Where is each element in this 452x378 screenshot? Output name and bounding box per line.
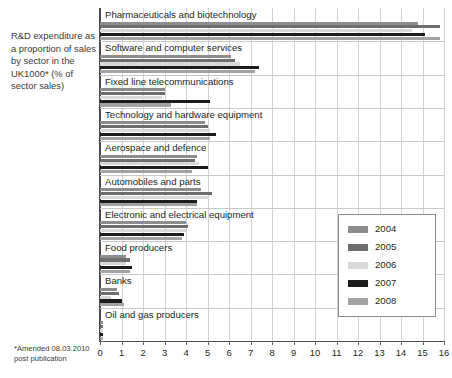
- x-axis-tick-label: 7: [241, 347, 261, 358]
- x-axis-tick-label: 14: [391, 347, 411, 358]
- x-axis-tick-label: 3: [155, 347, 175, 358]
- bar-2008: [100, 237, 182, 240]
- bar-2008: [100, 270, 130, 273]
- x-axis-tick-label: 16: [434, 347, 452, 358]
- bar-2006: [100, 29, 412, 32]
- x-axis-tick-label: 10: [305, 347, 325, 358]
- x-axis-tick: [122, 341, 123, 345]
- bar-2006: [100, 229, 186, 232]
- bar-2007: [100, 166, 208, 169]
- bar-2006: [100, 329, 103, 332]
- category-label: Fixed line telecommunications: [105, 76, 234, 87]
- bar-2005: [100, 192, 212, 195]
- bar-group: Pharmaceuticals and biotechnology: [100, 8, 444, 41]
- category-label: Banks: [105, 275, 132, 286]
- x-axis-tick: [272, 341, 273, 345]
- x-axis-tick: [401, 341, 402, 345]
- category-label: Electronic and electrical equipment: [105, 209, 254, 220]
- bar-2006: [100, 296, 111, 299]
- bar-group: Automobiles and parts: [100, 175, 444, 208]
- bar-2008: [100, 70, 255, 73]
- x-axis-tick: [143, 341, 144, 345]
- x-axis-tick: [100, 341, 101, 345]
- bar-2007: [100, 333, 103, 336]
- category-label: Technology and hardware equipment: [105, 109, 262, 120]
- chart-footnote: *Amended 08.03.2010 post publication: [14, 344, 102, 363]
- x-axis-tick-label: 1: [112, 347, 132, 358]
- bar-2006: [100, 62, 240, 65]
- bar-2005: [100, 292, 119, 295]
- x-axis-tick: [229, 341, 230, 345]
- legend-swatch-2004: [348, 226, 368, 233]
- x-axis-tick: [358, 341, 359, 345]
- bar-2005: [100, 92, 165, 95]
- bar-2004: [100, 321, 103, 324]
- bar-group: Aerospace and defence: [100, 141, 444, 174]
- x-axis-tick-label: 8: [262, 347, 282, 358]
- x-axis-tick-label: 0: [90, 347, 110, 358]
- legend-swatch-2005: [348, 244, 368, 251]
- bar-2004: [100, 221, 186, 224]
- x-axis-tick: [337, 341, 338, 345]
- x-axis-tick-label: 6: [219, 347, 239, 358]
- legend-label: 2008: [375, 295, 396, 307]
- bar-2007: [100, 33, 425, 36]
- x-axis-tick: [208, 341, 209, 345]
- legend-swatch-2006: [348, 262, 368, 269]
- category-label: Automobiles and parts: [105, 176, 200, 187]
- bar-2007: [100, 266, 132, 269]
- bar-2008: [100, 37, 440, 40]
- category-label: Food producers: [105, 242, 172, 253]
- x-axis-tick: [315, 341, 316, 345]
- bar-2005: [100, 25, 440, 28]
- x-axis-tick-label: 12: [348, 347, 368, 358]
- bar-2004: [100, 55, 231, 58]
- category-label: Aerospace and defence: [105, 142, 206, 153]
- legend-label: 2006: [375, 259, 396, 271]
- bar-2008: [100, 303, 124, 306]
- x-axis-tick-label: 15: [413, 347, 433, 358]
- bar-2007: [100, 200, 197, 203]
- bar-2007: [100, 100, 210, 103]
- x-axis-tick-label: 11: [327, 347, 347, 358]
- x-axis-tick-label: 4: [176, 347, 196, 358]
- bar-2005: [100, 59, 235, 62]
- legend-label: 2007: [375, 277, 396, 289]
- bar-2005: [100, 225, 188, 228]
- bar-2006: [100, 162, 199, 165]
- bar-group: Fixed line telecommunications: [100, 75, 444, 108]
- bar-2005: [100, 125, 208, 128]
- bar-2008: [100, 103, 171, 106]
- legend-label: 2005: [375, 241, 396, 253]
- bar-2008: [100, 137, 210, 140]
- category-label: Software and computer services: [105, 42, 242, 53]
- x-axis-tick: [186, 341, 187, 345]
- bar-2008: [100, 170, 192, 173]
- x-axis-tick-label: 5: [198, 347, 218, 358]
- chart-caption: R&D expenditure as a proportion of sales…: [11, 30, 97, 93]
- bar-2007: [100, 133, 216, 136]
- x-axis-tick: [251, 341, 252, 345]
- bar-2005: [100, 159, 195, 162]
- bar-2004: [100, 155, 197, 158]
- gridline: [444, 8, 445, 341]
- bar-2006: [100, 262, 126, 265]
- legend-swatch-2007: [348, 280, 368, 287]
- category-label: Pharmaceuticals and biotechnology: [105, 9, 256, 20]
- bar-2004: [100, 188, 201, 191]
- x-axis-tick-label: 13: [370, 347, 390, 358]
- bar-2005: [100, 258, 130, 261]
- x-axis-tick-label: 9: [284, 347, 304, 358]
- bar-group: Software and computer services: [100, 41, 444, 74]
- x-axis-tick: [380, 341, 381, 345]
- bar-2006: [100, 96, 162, 99]
- x-axis-tick: [423, 341, 424, 345]
- legend-swatch-2008: [348, 298, 368, 305]
- category-label: Oil and gas producers: [105, 309, 199, 320]
- bar-2004: [100, 121, 205, 124]
- bar-2004: [100, 255, 126, 258]
- x-axis-tick: [294, 341, 295, 345]
- bar-2005: [100, 325, 103, 328]
- x-axis-tick-label: 2: [133, 347, 153, 358]
- x-axis-tick: [444, 341, 445, 345]
